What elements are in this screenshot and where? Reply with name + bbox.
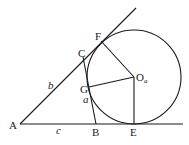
label-E: E bbox=[130, 126, 137, 138]
line-AF bbox=[20, 8, 136, 124]
excircle-diagram: A B C E F G Oa a b c bbox=[0, 0, 189, 145]
label-side-c: c bbox=[56, 124, 61, 136]
label-center: Oa bbox=[136, 71, 148, 85]
radius-OF bbox=[101, 41, 134, 77]
label-C: C bbox=[78, 47, 85, 59]
label-center-O: O bbox=[136, 71, 144, 83]
label-side-a: a bbox=[83, 93, 89, 105]
label-center-sub: a bbox=[144, 77, 148, 85]
label-F: F bbox=[95, 30, 101, 42]
label-side-b: b bbox=[48, 79, 54, 91]
label-B: B bbox=[92, 126, 99, 138]
radius-OG bbox=[89, 77, 134, 87]
label-A: A bbox=[9, 119, 17, 131]
